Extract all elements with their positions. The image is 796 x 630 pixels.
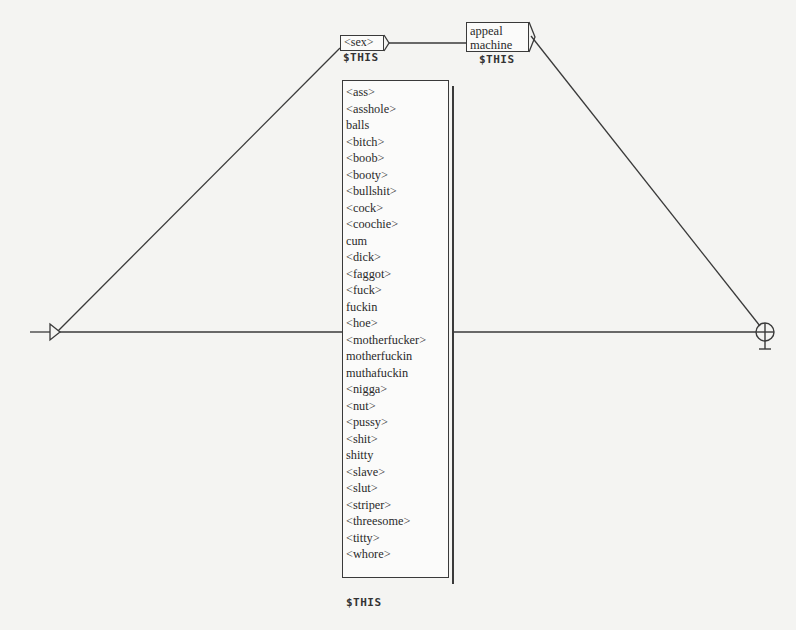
word-list-box-node[interactable]: <ass><asshole>balls<bitch><boob><booty><… xyxy=(342,80,449,578)
list-item: <dick> xyxy=(343,249,448,266)
list-item: <titty> xyxy=(343,530,448,547)
list-item: <slut> xyxy=(343,480,448,497)
list-item: <pussy> xyxy=(343,414,448,431)
list-item: <bitch> xyxy=(343,134,448,151)
list-item: <cock> xyxy=(343,200,448,217)
list-item: motherfuckin xyxy=(343,348,448,365)
edge-appeal-to-final xyxy=(531,36,760,326)
list-item: <whore> xyxy=(343,546,448,563)
appeal-machine-box-node[interactable]: appeal machine xyxy=(466,22,529,52)
list-item: <nut> xyxy=(343,398,448,415)
list-item: <striper> xyxy=(343,497,448,514)
list-box-output-line xyxy=(452,86,454,584)
appeal-box-output: $THIS xyxy=(479,53,515,66)
list-item: <ass> xyxy=(343,84,448,101)
list-item: <threesome> xyxy=(343,513,448,530)
sex-box-node[interactable]: <sex> xyxy=(340,35,384,51)
list-item: <boob> xyxy=(343,150,448,167)
list-item: <shit> xyxy=(343,431,448,448)
appeal-box-line-2: machine xyxy=(467,38,528,52)
appeal-box-line-1: appeal xyxy=(467,24,528,38)
list-box-output: $THIS xyxy=(346,596,382,609)
list-item: <booty> xyxy=(343,167,448,184)
edge-initial-to-sex xyxy=(58,48,340,331)
list-item: <asshole> xyxy=(343,101,448,118)
sex-box-output: $THIS xyxy=(343,51,379,64)
initial-state-icon xyxy=(50,324,60,340)
final-state-icon xyxy=(756,323,774,349)
sex-box-tip xyxy=(384,35,389,51)
list-item: cum xyxy=(343,233,448,250)
list-item: <bullshit> xyxy=(343,183,448,200)
list-item: balls xyxy=(343,117,448,134)
list-item: <motherfucker> xyxy=(343,332,448,349)
list-item: muthafuckin xyxy=(343,365,448,382)
word-list: <ass><asshole>balls<bitch><boob><booty><… xyxy=(343,84,448,563)
list-item: <slave> xyxy=(343,464,448,481)
list-item: shitty xyxy=(343,447,448,464)
list-item: <faggot> xyxy=(343,266,448,283)
list-item: <hoe> xyxy=(343,315,448,332)
sex-box-label: <sex> xyxy=(341,36,383,49)
list-item: fuckin xyxy=(343,299,448,316)
list-item: <fuck> xyxy=(343,282,448,299)
list-item: <nigga> xyxy=(343,381,448,398)
list-item: <coochie> xyxy=(343,216,448,233)
